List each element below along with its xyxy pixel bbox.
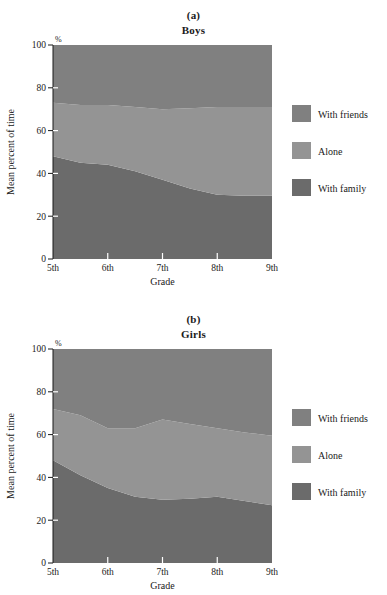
legend-swatch: [292, 483, 311, 500]
panel-b-title: Girls: [0, 325, 387, 340]
y-axis-unit-label: %: [55, 340, 62, 348]
legend-swatch: [292, 142, 311, 159]
x-tick-label: 7th: [156, 567, 168, 577]
panel-a-letter: (a): [0, 0, 387, 21]
y-axis-title: Mean percent of time: [5, 413, 16, 499]
y-tick-label: 0: [41, 558, 46, 568]
y-tick-label: 60: [37, 430, 47, 440]
legend-swatch: [292, 179, 311, 196]
chart-svg-girls: 020406080100%5th6th7th8th9thGradeMean pe…: [0, 340, 387, 595]
x-tick-label: 8th: [211, 263, 223, 273]
figure-stacked-area-charts: (a) Boys 020406080100%5th6th7th8th9thGra…: [0, 0, 387, 595]
x-tick-label: 9th: [266, 263, 278, 273]
x-tick-label: 6th: [102, 567, 114, 577]
panel-b-letter: (b): [0, 300, 387, 325]
area-with-friends: [53, 45, 272, 109]
plot-area-boys: 020406080100%5th6th7th8th9thGradeMean pe…: [0, 36, 387, 301]
x-tick-label: 6th: [102, 263, 114, 273]
x-tick-label: 9th: [266, 567, 278, 577]
legend-label: Alone: [318, 450, 343, 461]
x-axis-title: Grade: [150, 580, 175, 591]
y-tick-label: 40: [37, 169, 47, 179]
legend-label: Alone: [318, 146, 343, 157]
plot-area-girls: 020406080100%5th6th7th8th9thGradeMean pe…: [0, 340, 387, 595]
legend-swatch: [292, 105, 311, 122]
y-tick-label: 40: [37, 473, 47, 483]
x-tick-label: 7th: [156, 263, 168, 273]
legend-swatch: [292, 446, 311, 463]
panel-a-title: Boys: [0, 21, 387, 36]
legend-swatch: [292, 409, 311, 426]
chart-svg-boys: 020406080100%5th6th7th8th9thGradeMean pe…: [0, 36, 387, 301]
y-tick-label: 20: [37, 212, 47, 222]
legend-label: With family: [318, 487, 366, 498]
legend-label: With friends: [318, 109, 368, 120]
y-tick-label: 80: [37, 83, 47, 93]
y-tick-label: 100: [32, 40, 47, 50]
panel-boys: (a) Boys 020406080100%5th6th7th8th9thGra…: [0, 0, 387, 300]
legend-label: With friends: [318, 413, 368, 424]
x-tick-label: 5th: [47, 567, 59, 577]
legend-label: With family: [318, 183, 366, 194]
y-tick-label: 100: [32, 344, 47, 354]
y-axis-unit-label: %: [55, 36, 62, 44]
panel-girls: (b) Girls 020406080100%5th6th7th8th9thGr…: [0, 300, 387, 595]
y-tick-label: 60: [37, 126, 47, 136]
x-tick-label: 5th: [47, 263, 59, 273]
x-axis-title: Grade: [150, 276, 175, 287]
y-axis-title: Mean percent of time: [5, 109, 16, 195]
x-tick-label: 8th: [211, 567, 223, 577]
y-tick-label: 80: [37, 387, 47, 397]
y-tick-label: 20: [37, 516, 47, 526]
y-tick-label: 0: [41, 254, 46, 264]
